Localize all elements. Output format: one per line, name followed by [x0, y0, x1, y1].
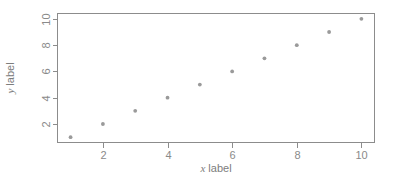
y-tick-label: 6 — [40, 68, 52, 74]
data-point — [360, 17, 364, 21]
y-tick-label: 8 — [40, 42, 52, 48]
data-point — [101, 122, 105, 126]
data-point — [295, 43, 299, 47]
y-axis-tick-labels: 246810 — [40, 13, 52, 127]
x-axis-ticks — [104, 143, 362, 148]
x-tick-label: 10 — [355, 149, 367, 161]
x-axis-tick-labels: 246810 — [100, 149, 367, 161]
x-axis-title: x label — [199, 162, 231, 174]
data-point — [166, 96, 170, 100]
chart-figure: 246810 246810 x label y label — [0, 0, 393, 182]
x-axis-title-text: label — [205, 162, 231, 174]
data-point — [69, 135, 73, 139]
data-point — [133, 109, 137, 113]
x-tick-label: 6 — [229, 149, 235, 161]
y-axis-title-text: label — [4, 62, 16, 88]
x-tick-label: 8 — [294, 149, 300, 161]
data-point — [263, 56, 267, 60]
y-tick-label: 10 — [40, 13, 52, 25]
y-axis-title: y label — [4, 62, 16, 94]
data-point — [327, 30, 331, 34]
data-point — [230, 70, 234, 74]
y-axis-ticks — [53, 20, 58, 125]
y-tick-label: 2 — [40, 121, 52, 127]
x-tick-label: 2 — [100, 149, 106, 161]
data-point — [198, 83, 202, 87]
y-tick-label: 4 — [40, 95, 52, 101]
x-tick-label: 4 — [165, 149, 171, 161]
scatter-plot: 246810 246810 x label y label — [0, 0, 393, 182]
